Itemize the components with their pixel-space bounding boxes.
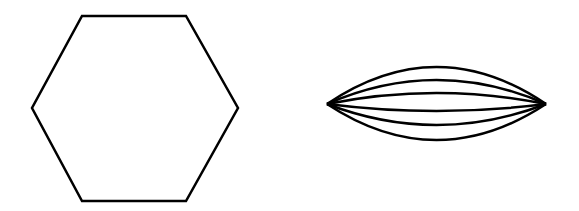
lens-arc-4 <box>327 104 546 111</box>
lens-arc-6 <box>327 104 546 140</box>
lens-arc-3 <box>327 93 546 104</box>
figure-canvas <box>0 0 579 211</box>
lens-arc-bundle <box>327 67 546 140</box>
hexagon-shape <box>32 16 238 201</box>
